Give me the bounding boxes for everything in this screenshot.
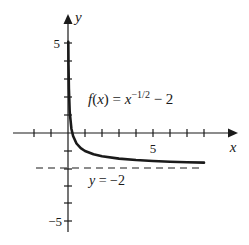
x-axis: 5 x	[13, 129, 238, 157]
y-axis-arrow-icon	[64, 14, 73, 24]
y-tick-label-neg5: −5	[48, 214, 62, 229]
function-label: f(x) = x−1/2 − 2	[88, 89, 173, 108]
x-axis-arrow-icon	[228, 129, 238, 138]
x-axis-label: x	[229, 139, 237, 155]
y-axis-label: y	[73, 9, 82, 25]
function-graph: 5 x 5 −5 y y = −2 f(x) = x−1/2 − 2	[0, 0, 249, 245]
asymptote-label: y = −2	[87, 173, 125, 188]
y-axis: 5 −5 y	[48, 9, 82, 232]
x-tick-label-5: 5	[150, 141, 157, 156]
y-tick-label-5: 5	[54, 36, 61, 51]
